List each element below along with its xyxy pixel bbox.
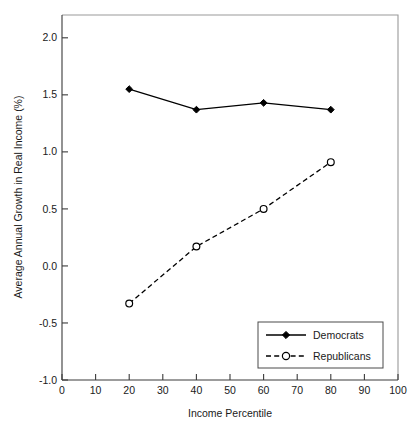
- data-point-democrats: [327, 106, 334, 113]
- legend-label-republicans: Republicans: [313, 350, 371, 362]
- data-point-republicans: [126, 300, 133, 307]
- y-tick-label: 1.0: [42, 145, 57, 157]
- y-tick-label: 1.5: [42, 88, 57, 100]
- series-line-republicans: [129, 162, 331, 303]
- series-layer: [126, 86, 334, 307]
- x-axis-title: Income Percentile: [188, 407, 272, 419]
- y-tick-label: -1.0: [39, 374, 57, 386]
- y-tick-label: 0.5: [42, 203, 57, 215]
- x-axis-ticks: 0102030405060708090100: [59, 374, 407, 396]
- data-point-democrats: [260, 99, 267, 106]
- x-tick-label: 70: [291, 384, 303, 396]
- x-tick-label: 10: [90, 384, 102, 396]
- y-tick-label: 0.0: [42, 260, 57, 272]
- data-point-republicans: [193, 243, 200, 250]
- y-axis-ticks: -1.0-0.50.00.51.01.52.0: [39, 31, 68, 385]
- x-tick-label: 20: [123, 384, 135, 396]
- y-tick-label: 2.0: [42, 31, 57, 43]
- series-democrats: [126, 86, 334, 113]
- line-chart: -1.0-0.50.00.51.01.52.0 0102030405060708…: [0, 0, 416, 425]
- data-point-democrats: [126, 86, 133, 93]
- data-point-republicans: [327, 159, 334, 166]
- x-tick-label: 80: [325, 384, 337, 396]
- x-tick-label: 0: [59, 384, 65, 396]
- series-republicans: [126, 159, 334, 307]
- chart-container: -1.0-0.50.00.51.01.52.0 0102030405060708…: [0, 0, 416, 425]
- y-tick-label: -0.5: [39, 317, 57, 329]
- x-tick-label: 60: [258, 384, 270, 396]
- x-tick-label: 40: [191, 384, 203, 396]
- x-tick-label: 100: [389, 384, 407, 396]
- x-tick-label: 30: [157, 384, 169, 396]
- x-tick-label: 50: [224, 384, 236, 396]
- x-tick-label: 90: [359, 384, 371, 396]
- legend-label-democrats: Democrats: [313, 329, 364, 341]
- series-line-democrats: [129, 89, 331, 110]
- legend-marker-republicans: [282, 352, 289, 359]
- chart-legend: DemocratsRepublicans: [258, 322, 383, 368]
- data-point-democrats: [193, 106, 200, 113]
- y-axis-title: Average Annual Growth in Real Income (%): [12, 96, 24, 299]
- data-point-republicans: [260, 206, 267, 213]
